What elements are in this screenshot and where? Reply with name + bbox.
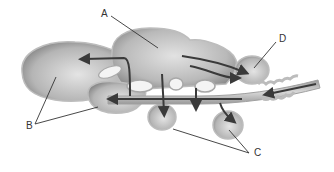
- pouch-c-left: [148, 104, 176, 130]
- label-c: C: [254, 148, 261, 158]
- label-d: D: [279, 34, 286, 44]
- anatomy-diagram: [0, 0, 334, 172]
- leader-b-lower: [35, 107, 98, 124]
- label-b: B: [26, 121, 33, 131]
- label-a: A: [101, 9, 108, 19]
